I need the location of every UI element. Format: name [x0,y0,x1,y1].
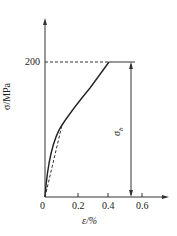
x-axis-arrow-icon [162,195,169,199]
x-axis-label: ε/% [82,216,97,226]
x-tick-0.6: 0.6 [136,201,149,211]
y-axis-label: σ/MPa [2,83,12,110]
chart-canvas [0,0,177,236]
y-axis-arrow-icon [43,18,47,25]
sigma-b-label: σb [112,128,126,136]
dashed-reference-line [45,125,62,197]
x-tick-0.2: 0.2 [72,201,85,211]
x-tick-0.4: 0.4 [102,201,115,211]
stress-strain-curve [45,62,109,197]
y-tick-200: 200 [25,57,40,67]
x-tick-0: 0 [40,201,45,211]
